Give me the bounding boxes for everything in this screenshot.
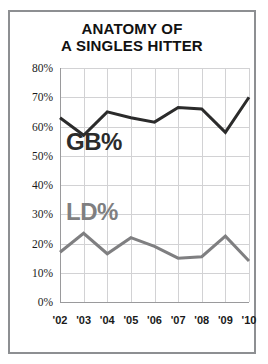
- x-axis-tick-label: '10: [242, 314, 257, 326]
- chart-plot-area: 0%10%20%30%40%50%60%70%80%'02'03'04'05'0…: [10, 12, 258, 356]
- y-axis-tick-label: 80%: [32, 62, 54, 74]
- x-axis-tick-label: '08: [194, 314, 209, 326]
- series-label-ld: LD%: [66, 198, 118, 225]
- y-axis-tick-label: 40%: [32, 179, 54, 191]
- series-line-ld: [60, 233, 249, 261]
- series-label-gb: GB%: [66, 128, 122, 155]
- y-axis-tick-label: 30%: [32, 208, 54, 220]
- x-axis-tick-label: '02: [53, 314, 68, 326]
- x-axis-tick-label: '04: [100, 314, 116, 326]
- y-axis-tick-label: 0%: [38, 296, 54, 308]
- x-axis-tick-label: '06: [147, 314, 162, 326]
- y-axis-tick-label: 10%: [32, 267, 54, 279]
- line-chart-svg: 0%10%20%30%40%50%60%70%80%'02'03'04'05'0…: [10, 12, 258, 356]
- y-axis-tick-label: 20%: [32, 238, 54, 250]
- y-axis-tick-label: 50%: [32, 150, 54, 162]
- x-axis-tick-label: '05: [123, 314, 138, 326]
- y-axis-tick-label: 60%: [32, 121, 54, 133]
- chart-card: ANATOMY OF A SINGLES HITTER 0%10%20%30%4…: [8, 10, 256, 354]
- x-axis-tick-label: '03: [76, 314, 91, 326]
- x-axis-tick-label: '09: [218, 314, 233, 326]
- y-axis-tick-label: 70%: [32, 91, 54, 103]
- x-axis-tick-label: '07: [171, 314, 186, 326]
